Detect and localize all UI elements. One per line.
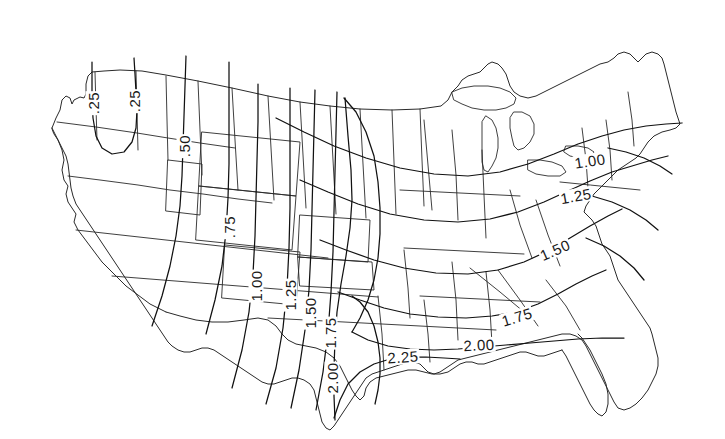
state-box-colorado: [196, 186, 296, 250]
contour-label: 1.50: [303, 296, 318, 329]
state-line-arkansas: [404, 250, 410, 318]
state-line-louisiana: [424, 300, 430, 362]
contour-label: .25: [127, 89, 142, 113]
state-line-ew-4: [112, 276, 378, 297]
contour-label: 1.00: [249, 269, 264, 302]
contour-1-00-east: [276, 118, 682, 176]
state-line-midwest-1: [424, 120, 432, 210]
lake-huron: [510, 112, 534, 150]
contour-1-50-west: [291, 90, 315, 408]
contour-label: 2.00: [325, 361, 340, 394]
contour-label: .50: [177, 134, 192, 158]
state-line-ew-east-3: [420, 296, 540, 302]
contour-1-50-east: [320, 209, 622, 274]
state-line-se-1: [470, 268, 524, 312]
state-line-ns-3: [166, 76, 168, 160]
state-line-ns-7: [300, 102, 306, 208]
state-line-ns-5: [232, 88, 238, 190]
contour-0-75: [206, 62, 229, 334]
pacific-coast: [52, 128, 166, 312]
map-canvas: [0, 0, 725, 439]
contour-label: 1.25: [283, 278, 298, 311]
state-line-northeast-3: [628, 92, 634, 146]
state-line-appalachian-1: [510, 190, 532, 258]
lake-superior: [452, 86, 516, 110]
state-box-wyoming: [199, 132, 300, 196]
state-line-se-3: [546, 280, 580, 330]
state-line-ew-east-1: [400, 190, 520, 196]
contour-label: 1.75: [323, 316, 338, 349]
state-line-ns-10: [392, 110, 396, 214]
state-line-ew-3: [76, 230, 328, 258]
contour-0-50: [152, 56, 186, 326]
contour-1-25-west: [266, 88, 290, 404]
contour-1-25-ne-spur: [592, 196, 658, 230]
state-line-ns-6: [268, 96, 274, 200]
lake-michigan: [482, 116, 498, 172]
contour-label: .25: [86, 91, 101, 115]
contour-label: 2.25: [386, 348, 420, 365]
state-line-ew-1: [57, 122, 235, 148]
state-boundaries: [52, 52, 680, 430]
state-box-utah-nevada: [166, 160, 202, 215]
us-national-outline: [52, 52, 680, 430]
state-line-ew-east-2: [404, 248, 524, 254]
contour-label: 2.00: [462, 337, 496, 354]
contour-label: .75: [222, 215, 237, 239]
florida-peninsula: [562, 334, 608, 416]
state-line-northeast-2: [606, 120, 612, 180]
contour-1-75-east: [338, 270, 606, 318]
contour-map-figure: .25.25.50.751.001.251.501.752.002.252.00…: [0, 0, 725, 439]
contour-1-50-ne-spur: [586, 238, 644, 280]
state-line-ew-2: [68, 176, 272, 203]
